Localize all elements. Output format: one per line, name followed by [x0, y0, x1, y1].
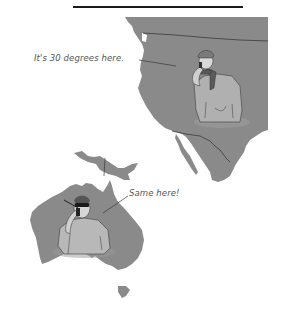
new-guinea-map: [74, 151, 138, 180]
callout-text-australia: Same here!: [129, 188, 180, 198]
illustration-canvas: It's 30 degrees here. Same here!: [0, 0, 283, 310]
callout-text-north-america: It's 30 degrees here.: [34, 53, 124, 63]
map-artwork: [0, 0, 283, 310]
